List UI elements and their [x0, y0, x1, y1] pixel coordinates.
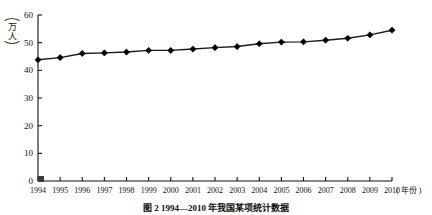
x-tick-label-11: 2005 — [273, 186, 289, 195]
data-point-15 — [367, 32, 373, 38]
series-markers — [35, 27, 395, 63]
chart-figure: ︵ 万人︶ 0102030405060199419951996199719981… — [0, 0, 432, 215]
x-tick-label-8: 2002 — [207, 186, 223, 195]
x-tick-label-10: 2004 — [251, 186, 267, 195]
y-tick-label-0: 0 — [29, 176, 34, 186]
x-tick-label-12: 2006 — [296, 186, 312, 195]
data-point-14 — [345, 35, 351, 41]
x-axis-unit-label: ( 年份 ) — [396, 186, 421, 195]
data-point-5 — [146, 47, 152, 53]
x-tick-label-14: 2008 — [340, 186, 356, 195]
x-tick-label-0: 1994 — [30, 186, 46, 195]
data-point-6 — [168, 47, 174, 53]
x-tick-label-5: 1999 — [141, 186, 157, 195]
chart-plot-area: 0102030405060199419951996199719981999200… — [0, 0, 432, 215]
x-tick-label-13: 2007 — [318, 186, 334, 195]
x-tick-label-9: 2003 — [229, 186, 245, 195]
data-point-0 — [35, 57, 41, 63]
x-tick-label-2: 1996 — [74, 186, 90, 195]
data-point-4 — [123, 49, 129, 55]
data-point-12 — [300, 39, 306, 45]
y-tick-label-6: 60 — [24, 10, 34, 20]
y-tick-label-3: 30 — [24, 93, 34, 103]
x-tick-label-15: 2009 — [362, 186, 378, 195]
data-point-3 — [101, 50, 107, 56]
legend-square-marker — [38, 176, 44, 182]
x-tick-label-1: 1995 — [52, 186, 68, 195]
x-tick-label-7: 2001 — [185, 186, 201, 195]
data-point-11 — [278, 39, 284, 45]
data-point-7 — [190, 46, 196, 52]
y-tick-label-4: 40 — [24, 65, 34, 75]
x-tick-label-6: 2000 — [163, 186, 179, 195]
data-point-2 — [79, 50, 85, 56]
x-tick-label-4: 1998 — [119, 186, 135, 195]
data-point-8 — [212, 45, 218, 51]
chart-axes — [38, 15, 392, 181]
data-point-16 — [389, 27, 395, 33]
data-point-1 — [57, 55, 63, 61]
x-axis-ticks: 1994199519961997199819992000200120022003… — [30, 177, 400, 195]
y-tick-label-5: 50 — [24, 38, 34, 48]
y-tick-label-1: 10 — [24, 148, 34, 158]
x-tick-label-3: 1997 — [96, 186, 112, 195]
data-point-10 — [256, 41, 262, 47]
y-tick-label-2: 20 — [24, 121, 34, 131]
data-point-13 — [323, 37, 329, 43]
data-point-9 — [234, 43, 240, 49]
figure-caption: 图 2 1994—2010 年我国某项统计数据 — [0, 203, 432, 214]
y-axis-ticks: 0102030405060 — [24, 10, 42, 186]
